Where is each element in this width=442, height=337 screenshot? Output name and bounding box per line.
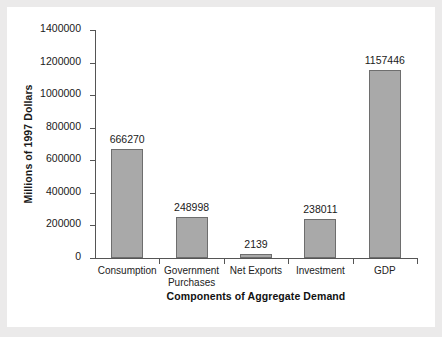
bar-chart-figure: Millions of 1997 Dollars 020000040000060…: [0, 0, 442, 337]
y-axis-tick-label: 600000: [46, 152, 81, 164]
bar-value-label: 1157446: [340, 54, 430, 66]
y-axis-tick-label: 800000: [46, 120, 81, 132]
x-axis-line: [95, 258, 418, 259]
bar: [304, 219, 336, 258]
x-axis-category-label-line: Purchases: [157, 277, 225, 289]
bar-value-label: 2139: [211, 238, 301, 250]
x-axis-tick: [159, 259, 160, 264]
bar-value-label: 248998: [147, 201, 237, 213]
y-axis-tick-label: 1200000: [40, 55, 81, 67]
x-axis-end-tick: [417, 259, 418, 264]
x-axis-category-label: GovernmentPurchases: [157, 265, 225, 289]
y-axis-tick-label: 0: [75, 250, 81, 262]
y-axis-tick-label: 1400000: [40, 22, 81, 34]
x-axis-category-label-line: Investment: [286, 265, 354, 277]
y-axis-tick: 0: [90, 258, 95, 259]
y-axis-tick: 1000000: [90, 95, 95, 96]
x-axis-tick: [288, 259, 289, 264]
x-axis-category-label-line: Consumption: [93, 265, 161, 277]
y-axis-tick: 200000: [90, 225, 95, 226]
x-axis-category-label-line: Net Exports: [222, 265, 290, 277]
x-axis-category-label-line: Government: [157, 265, 225, 277]
bar-value-label: 238011: [275, 203, 365, 215]
bar: [369, 70, 401, 258]
bar-value-label: 666270: [82, 133, 172, 145]
y-axis-tick: 400000: [90, 193, 95, 194]
x-axis-category-label: Investment: [286, 265, 354, 277]
y-axis-title: Millions of 1997 Dollars: [22, 54, 34, 234]
y-axis-tick: 1400000: [90, 30, 95, 31]
screenshot-page: Millions of 1997 Dollars 020000040000060…: [0, 0, 442, 337]
y-axis-tick-label: 1000000: [40, 87, 81, 99]
x-axis-category-label-line: GDP: [351, 265, 419, 277]
y-axis-tick: 1200000: [90, 63, 95, 64]
bar: [111, 149, 143, 258]
y-axis-tick-label: 200000: [46, 217, 81, 229]
bar: [176, 217, 208, 258]
x-axis-category-label: Net Exports: [222, 265, 290, 277]
x-axis-title: Components of Aggregate Demand: [95, 290, 417, 302]
y-axis-tick-label: 400000: [46, 185, 81, 197]
y-axis-tick: 600000: [90, 160, 95, 161]
x-axis-category-label: Consumption: [93, 265, 161, 277]
bar: [240, 254, 272, 258]
x-axis-category-label: GDP: [351, 265, 419, 277]
y-axis-tick: 800000: [90, 128, 95, 129]
x-axis-tick: [224, 259, 225, 264]
x-axis-tick: [353, 259, 354, 264]
plot-area: 0200000400000600000800000100000012000001…: [95, 30, 417, 258]
